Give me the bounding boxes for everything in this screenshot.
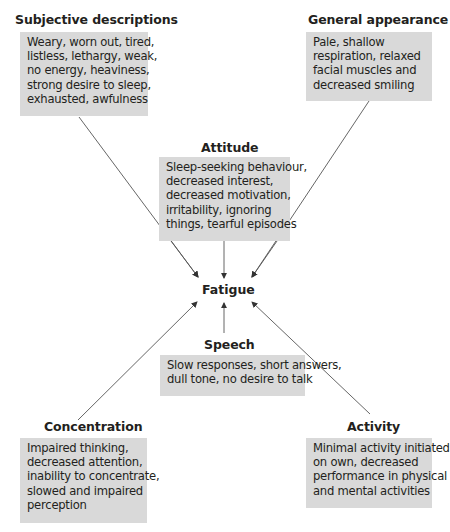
box-line: dull tone, no desire to talk: [167, 372, 299, 386]
box-line: respiration, relaxed: [313, 49, 426, 63]
arrow-attitude-right-to-fatigue: [252, 241, 277, 277]
box-line: on own, decreased: [313, 455, 426, 469]
box-line: decreased motivation,: [166, 188, 284, 202]
box-line: Minimal activity initiated: [313, 441, 426, 455]
box-line: Slow responses, short answers,: [167, 358, 299, 372]
activity-box: Minimal activity initiated on own, decre…: [306, 438, 432, 508]
box-line: Sleep-seeking behaviour,: [166, 160, 284, 174]
speech-title: Speech: [204, 337, 255, 352]
concentration-title: Concentration: [44, 419, 142, 434]
attitude-title: Attitude: [201, 140, 258, 155]
box-line: facial muscles and: [313, 63, 426, 77]
general-appearance-title: General appearance: [308, 12, 448, 27]
box-line: performance in physical: [313, 469, 426, 483]
box-line: Impaired thinking,: [27, 441, 141, 455]
concentration-box: Impaired thinking, decreased attention, …: [20, 438, 147, 523]
box-line: Weary, worn out, tired,: [27, 35, 142, 49]
box-line: perception: [27, 498, 141, 512]
box-line: decreased smiling: [313, 78, 426, 92]
speech-box: Slow responses, short answers, dull tone…: [160, 355, 305, 396]
box-line: strong desire to sleep,: [27, 78, 142, 92]
attitude-box: Sleep-seeking behaviour, decreased inter…: [159, 157, 290, 241]
subjective-descriptions-box: Weary, worn out, tired, listless, lethar…: [20, 32, 148, 116]
box-line: decreased interest,: [166, 174, 284, 188]
box-line: exhausted, awfulness: [27, 92, 142, 106]
box-line: irritability, ignoring: [166, 203, 284, 217]
fatigue-label: Fatigue: [202, 282, 255, 297]
box-line: slowed and impaired: [27, 484, 141, 498]
activity-title: Activity: [347, 419, 400, 434]
subjective-descriptions-title: Subjective descriptions: [15, 12, 178, 27]
box-line: inability to concentrate,: [27, 469, 141, 483]
general-appearance-box: Pale, shallow respiration, relaxed facia…: [306, 32, 432, 101]
box-line: and mental activities: [313, 484, 426, 498]
box-line: decreased attention,: [27, 455, 141, 469]
box-line: things, tearful episodes: [166, 217, 284, 231]
box-line: no energy, heaviness,: [27, 63, 142, 77]
box-line: listless, lethargy, weak,: [27, 49, 142, 63]
box-line: Pale, shallow: [313, 35, 426, 49]
arrow-attitude-left-to-fatigue: [171, 241, 198, 277]
